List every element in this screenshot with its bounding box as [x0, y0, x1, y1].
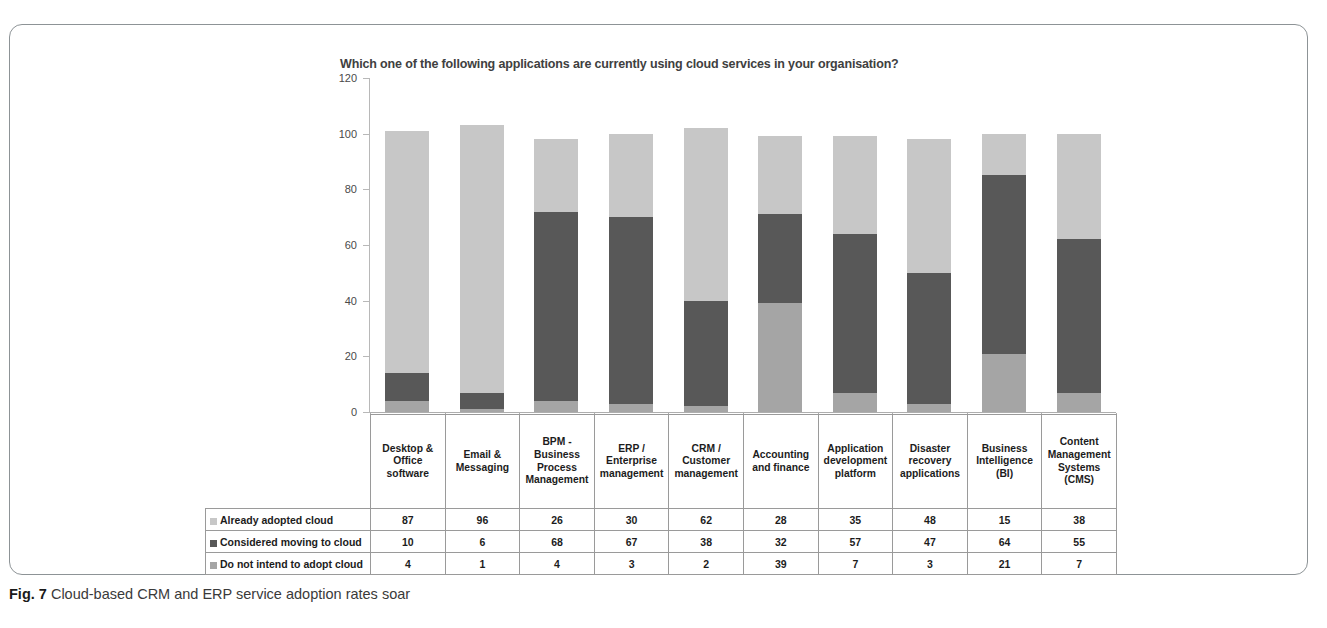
bar-segment [758, 214, 802, 303]
bar-segment [534, 401, 578, 412]
table-value-cell: 32 [743, 531, 818, 553]
bar-segment [460, 125, 504, 392]
table-value-cell: 68 [520, 531, 595, 553]
bar-column [892, 78, 967, 412]
table-category-header: Application development platform [818, 415, 893, 509]
table-value-cell: 38 [1042, 509, 1117, 531]
bar-segment [460, 393, 504, 410]
y-axis-tick-label: 20 [313, 350, 357, 362]
bar-column [370, 78, 445, 412]
bar-segment [907, 139, 951, 273]
legend-entry: Already adopted cloud [206, 509, 371, 531]
bar-segment [758, 303, 802, 412]
bar-segment [1057, 393, 1101, 412]
table-row: Do not intend to adopt cloud414323973217 [206, 553, 1117, 575]
y-axis-tick [363, 412, 370, 413]
bar-segment [833, 234, 877, 393]
bar-segment [982, 134, 1026, 176]
bar-segment [460, 409, 504, 412]
table-category-header: Content Management Systems (CMS) [1042, 415, 1117, 509]
bar-segment [833, 136, 877, 233]
bar-segment [833, 393, 877, 412]
table-category-header: Business Intelligence (BI) [967, 415, 1042, 509]
table-header-row: Desktop & Office softwareEmail & Messagi… [206, 415, 1117, 509]
bar-segment [609, 134, 653, 218]
bar-stack [460, 125, 504, 412]
legend-entry: Considered moving to cloud [206, 531, 371, 553]
bar-segment [684, 128, 728, 301]
figure-root: Which one of the following applications … [0, 0, 1327, 628]
table-value-cell: 2 [669, 553, 744, 575]
table-value-cell: 3 [893, 553, 968, 575]
y-axis-tick-label: 80 [313, 183, 357, 195]
bar-segment [385, 131, 429, 373]
legend-swatch-icon [210, 518, 217, 525]
legend-label: Already adopted cloud [220, 514, 333, 526]
table-value-cell: 39 [743, 553, 818, 575]
table-value-cell: 7 [818, 553, 893, 575]
table-value-cell: 96 [445, 509, 520, 531]
y-axis-tick-label: 100 [313, 128, 357, 140]
table-value-cell: 26 [520, 509, 595, 531]
bar-series-layer [370, 78, 1116, 412]
bar-segment [534, 212, 578, 401]
table-value-cell: 6 [445, 531, 520, 553]
table-value-cell: 48 [893, 509, 968, 531]
y-axis-tick [363, 189, 370, 190]
legend-swatch-icon [210, 562, 217, 569]
table-category-header: Accounting and finance [743, 415, 818, 509]
bar-stack [907, 139, 951, 412]
legend-label: Considered moving to cloud [220, 536, 362, 548]
bar-column [668, 78, 743, 412]
bar-stack [609, 134, 653, 412]
bar-segment [684, 406, 728, 412]
y-axis-tick-label: 120 [313, 72, 357, 84]
table-value-cell: 4 [371, 553, 446, 575]
table-value-cell: 15 [967, 509, 1042, 531]
table-value-cell: 38 [669, 531, 744, 553]
table-value-cell: 87 [371, 509, 446, 531]
bar-column [1041, 78, 1116, 412]
table-value-cell: 28 [743, 509, 818, 531]
table-value-cell: 62 [669, 509, 744, 531]
table-category-header: BPM - Business Process Management [520, 415, 595, 509]
table-value-cell: 57 [818, 531, 893, 553]
table-category-header: Disaster recovery applications [893, 415, 968, 509]
y-axis-tick-label: 60 [313, 239, 357, 251]
bar-column [594, 78, 669, 412]
table-category-header: ERP / Enterprise management [594, 415, 669, 509]
bar-stack [385, 131, 429, 412]
bar-segment [534, 139, 578, 211]
table-category-header: Email & Messaging [445, 415, 520, 509]
bar-segment [385, 373, 429, 401]
table-corner-cell [206, 415, 371, 509]
table-value-cell: 67 [594, 531, 669, 553]
y-axis-tick [363, 356, 370, 357]
bar-column [445, 78, 520, 412]
bar-segment [1057, 134, 1101, 240]
bar-segment [982, 354, 1026, 412]
bar-segment [684, 301, 728, 407]
bar-stack [684, 128, 728, 412]
y-axis-tick [363, 134, 370, 135]
bar-column [967, 78, 1042, 412]
table-value-cell: 47 [893, 531, 968, 553]
legend-entry: Do not intend to adopt cloud [206, 553, 371, 575]
table-category-header: CRM / Customer management [669, 415, 744, 509]
table-category-header: Desktop & Office software [371, 415, 446, 509]
bar-segment [609, 404, 653, 412]
legend-label: Do not intend to adopt cloud [220, 558, 363, 570]
caption-label: Fig. 7 [9, 586, 47, 602]
table-row: Considered moving to cloud10668673832574… [206, 531, 1117, 553]
bar-segment [1057, 239, 1101, 392]
table-value-cell: 64 [967, 531, 1042, 553]
bar-column [743, 78, 818, 412]
bar-stack [534, 139, 578, 412]
bar-segment [758, 136, 802, 214]
figure-caption: Fig. 7 Cloud-based CRM and ERP service a… [9, 586, 410, 602]
bar-stack [1057, 134, 1101, 412]
bar-column [818, 78, 893, 412]
table-value-cell: 3 [594, 553, 669, 575]
bar-stack [833, 136, 877, 412]
bar-segment [907, 404, 951, 412]
